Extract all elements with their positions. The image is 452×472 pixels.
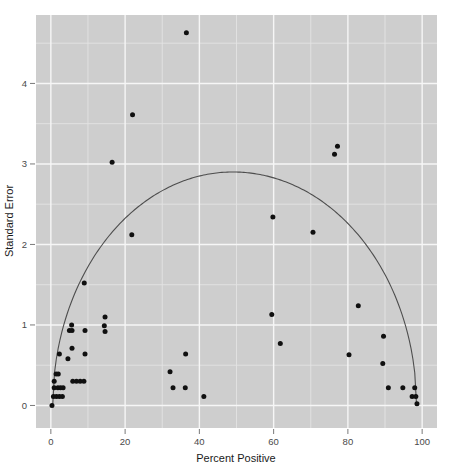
y-tick-label: 0 — [22, 400, 27, 411]
x-tick-label: 20 — [120, 436, 131, 447]
y-tick-label: 3 — [22, 158, 27, 169]
y-tick-label: 4 — [22, 78, 27, 89]
y-tick-label: 1 — [22, 319, 27, 330]
funnel-plot-figure: 020406080100 01234 Percent Positive Stan… — [0, 0, 452, 472]
x-tick-label: 60 — [268, 436, 279, 447]
y-axis-title: Standard Error — [3, 185, 15, 257]
x-tick-label: 40 — [194, 436, 205, 447]
x-tick-label: 80 — [343, 436, 354, 447]
x-axis-title: Percent Positive — [196, 452, 275, 464]
y-tick-label: 2 — [22, 239, 27, 250]
scan-noise-overlay — [36, 15, 437, 428]
x-tick-label: 100 — [414, 436, 430, 447]
x-tick-label: 0 — [48, 436, 53, 447]
